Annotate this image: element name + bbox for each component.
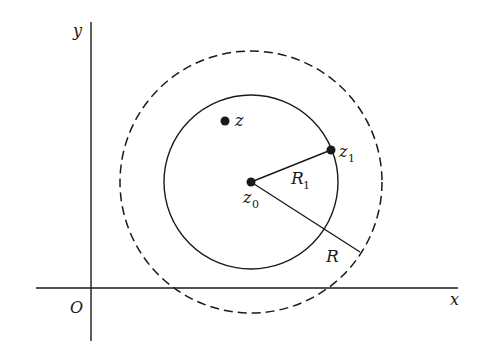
z0-label: z bbox=[242, 188, 252, 207]
r-label: R bbox=[325, 246, 339, 266]
z0-subscript: 0 bbox=[252, 198, 259, 211]
point-z bbox=[221, 117, 230, 126]
complex-plane-diagram: y x O z z 0 z 1 R 1 R bbox=[0, 0, 482, 352]
z1-label: z bbox=[338, 142, 348, 161]
r1-label: R bbox=[290, 168, 304, 188]
origin-label: O bbox=[70, 298, 83, 317]
r1-subscript: 1 bbox=[303, 179, 310, 192]
z1-subscript: 1 bbox=[348, 152, 355, 165]
y-axis-label: y bbox=[72, 21, 83, 40]
z-label: z bbox=[234, 111, 244, 130]
point-z1 bbox=[327, 146, 336, 155]
x-axis-label: x bbox=[450, 290, 459, 309]
radius-r-segment bbox=[251, 182, 360, 252]
point-z0 bbox=[247, 178, 256, 187]
